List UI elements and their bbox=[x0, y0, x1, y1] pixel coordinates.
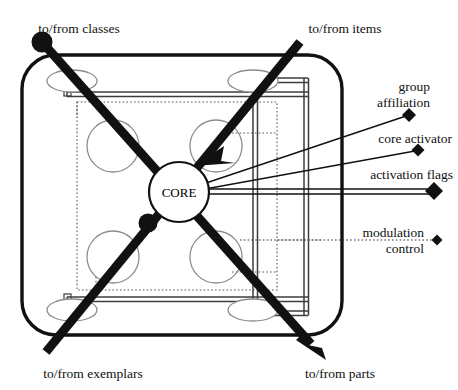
label-to-from-classes: to/from classes bbox=[38, 21, 119, 36]
modulation-control-diamond-icon bbox=[432, 235, 443, 246]
label-to-from-items: to/from items bbox=[308, 21, 381, 36]
label-activation-flags: activation flags bbox=[370, 167, 453, 182]
label-core-activator: core activator bbox=[378, 131, 452, 146]
diagram-canvas: CORE to/from classes to/from items to/fr… bbox=[0, 0, 458, 390]
label-group-affiliation-line2: affiliation bbox=[377, 95, 430, 110]
label-modulation-control-line2: control bbox=[386, 241, 424, 256]
core-label: CORE bbox=[162, 185, 197, 200]
label-group-affiliation-line1: group bbox=[399, 79, 431, 94]
port-labels: group affiliation core activator activat… bbox=[363, 79, 454, 256]
core-connectivity-diagram: CORE to/from classes to/from items to/fr… bbox=[0, 0, 458, 390]
core-node[interactable]: CORE bbox=[149, 162, 209, 222]
label-to-from-parts: to/from parts bbox=[305, 366, 375, 381]
label-to-from-exemplars: to/from exemplars bbox=[43, 366, 142, 381]
group-affiliation-diamond-icon bbox=[402, 108, 416, 122]
label-modulation-control-line1: modulation bbox=[363, 225, 425, 240]
exemplars-junction-node bbox=[139, 214, 158, 233]
activation-flags-diamond-icon bbox=[425, 182, 443, 200]
